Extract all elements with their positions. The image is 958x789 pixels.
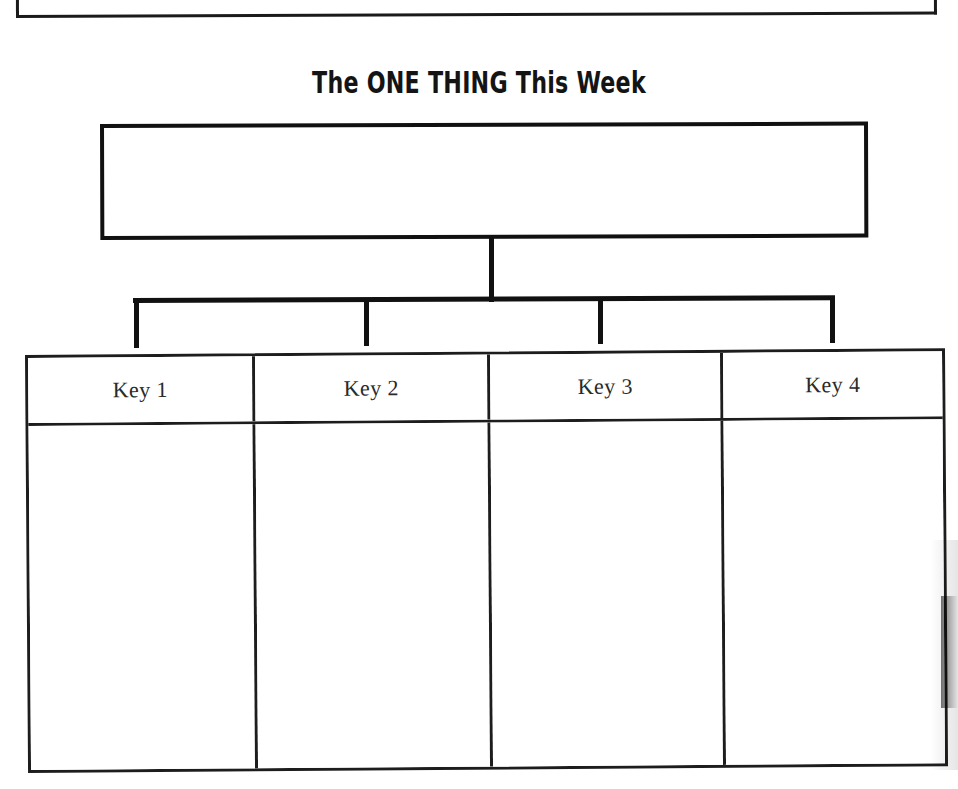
- page-title: The ONE THING This Week: [125, 66, 834, 100]
- key-header-4: Key 4: [723, 351, 942, 418]
- connector-drop-2: [364, 300, 369, 346]
- connector-stem: [489, 238, 494, 302]
- keys-table-body-row: [29, 419, 945, 770]
- keys-table-header-row: Key 1 Key 2 Key 3 Key 4: [28, 351, 942, 426]
- key-header-3: Key 3: [490, 353, 723, 420]
- connector-drop-4: [830, 300, 835, 343]
- cropped-box-above: [16, 0, 937, 18]
- connector-horizontal-bar: [133, 295, 835, 303]
- key-cell-3[interactable]: [491, 421, 727, 767]
- key-header-1: Key 1: [28, 356, 255, 423]
- key-cell-2[interactable]: [256, 423, 494, 769]
- connector-drop-3: [598, 300, 603, 344]
- key-cell-1[interactable]: [29, 424, 259, 770]
- connector-drop-1: [134, 300, 139, 348]
- keys-table: Key 1 Key 2 Key 3 Key 4: [25, 348, 948, 773]
- key-cell-4[interactable]: [724, 419, 946, 765]
- key-header-2: Key 2: [255, 355, 490, 422]
- one-thing-input-box[interactable]: [100, 122, 868, 240]
- worksheet-page: The ONE THING This Week Key 1 Key 2 Key …: [0, 0, 958, 789]
